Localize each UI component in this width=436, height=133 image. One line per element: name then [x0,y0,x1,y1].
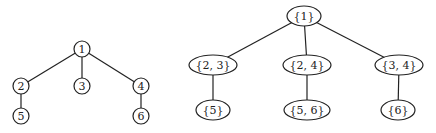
node-label: {6} [388,104,409,117]
right-tree-node: {6} [381,100,415,120]
tree-diagrams: 123456 {1}{2, 3}{2, 4}{3, 4}{5}{5, 6}{6} [0,0,436,133]
left-tree-nodes: 123456 [13,41,149,124]
right-tree-node: {3, 4} [375,55,423,75]
node-label: 5 [18,110,25,123]
left-tree-edge [82,49,141,86]
diagram-canvas: 123456 {1}{2, 3}{2, 4}{3, 4}{5}{5, 6}{6} [0,0,436,133]
left-tree-node: 4 [133,78,149,94]
node-label: {2, 3} [196,59,231,72]
node-label: 4 [138,80,145,93]
left-tree-node: 5 [13,108,29,124]
right-tree-nodes: {1}{2, 3}{2, 4}{3, 4}{5}{5, 6}{6} [189,6,423,120]
right-tree-node: {2, 4} [283,55,331,75]
node-label: 1 [79,43,86,56]
right-tree-node: {2, 3} [189,55,237,75]
right-tree-node: {1} [287,6,321,26]
right-tree-node: {5, 6} [284,100,330,120]
left-tree-node: 6 [133,108,149,124]
left-tree-edge [21,49,82,86]
node-label: {1} [294,10,315,23]
node-label: {3, 4} [382,59,417,72]
left-tree-node: 3 [74,78,90,94]
right-tree-node: {5} [196,100,230,120]
left-tree-node: 1 [74,41,90,57]
node-label: {2, 4} [290,59,325,72]
node-label: {5} [203,104,224,117]
node-label: 2 [18,80,25,93]
node-label: 6 [138,110,145,123]
node-label: 3 [79,80,86,93]
left-tree-node: 2 [13,78,29,94]
node-label: {5, 6} [290,104,325,117]
